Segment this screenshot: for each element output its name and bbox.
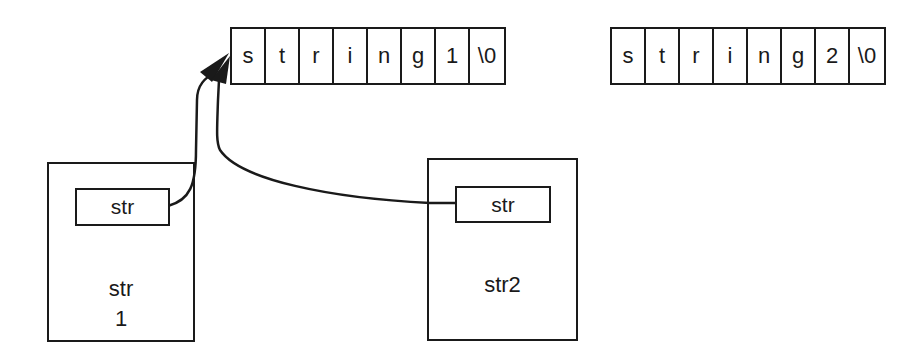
str2-label: str2	[429, 270, 576, 300]
str2-pointer-field: str	[455, 186, 551, 223]
array-cell: i	[714, 29, 748, 83]
array-cell: n	[748, 29, 782, 83]
array-cell: i	[334, 29, 368, 83]
str2-box: str str2	[427, 158, 578, 341]
arrow-str2-to-string1	[217, 80, 455, 203]
array-cell: g	[402, 29, 436, 83]
array-cell: g	[782, 29, 816, 83]
array-cell: r	[680, 29, 714, 83]
str1-pointer-field: str	[75, 188, 170, 226]
str1-label-line1: str	[49, 274, 193, 304]
array-cell: \0	[470, 29, 504, 83]
array-cell: n	[368, 29, 402, 83]
array-cell: 2	[816, 29, 850, 83]
string1-array: s t r i n g 1 \0	[230, 27, 506, 85]
array-cell: s	[232, 29, 266, 83]
array-cell: \0	[850, 29, 884, 83]
str1-label: str 1	[49, 274, 193, 334]
array-cell: s	[612, 29, 646, 83]
array-cell: t	[266, 29, 300, 83]
string2-array: s t r i n g 2 \0	[610, 27, 886, 85]
array-cell: t	[646, 29, 680, 83]
array-cell: r	[300, 29, 334, 83]
array-cell: 1	[436, 29, 470, 83]
str1-box: str str 1	[47, 162, 195, 342]
str1-label-line2: 1	[49, 304, 193, 334]
